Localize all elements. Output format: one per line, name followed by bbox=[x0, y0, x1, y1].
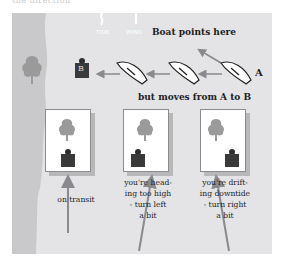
boat-icon bbox=[115, 60, 149, 86]
cutoff-heading-text: the direction bbox=[12, 0, 71, 5]
point-a-label: A bbox=[255, 67, 263, 78]
caption-on-transit: on transit bbox=[46, 194, 106, 205]
moves-caption: but moves from A to B bbox=[138, 92, 251, 102]
wind-label: WIND bbox=[126, 29, 142, 35]
caption-drifting: you're drift- ing downtide - turn right … bbox=[192, 177, 258, 221]
diagram-panel: TIDE WIND Boat points here B A but mov bbox=[12, 13, 272, 254]
boat-icon bbox=[219, 60, 253, 86]
boat-points-caption: Boat points here bbox=[152, 27, 236, 37]
card-tree-icon bbox=[136, 119, 154, 141]
card-tree-icon bbox=[58, 119, 76, 141]
card-buoy-icon bbox=[61, 149, 75, 167]
wind-icon bbox=[131, 13, 141, 27]
tide-icon bbox=[96, 13, 136, 27]
tide-label: TIDE bbox=[96, 29, 110, 35]
caption-heading-high: you're head- ing too high - turn left a … bbox=[115, 177, 181, 221]
card-buoy-icon bbox=[131, 149, 145, 167]
boat-icon bbox=[167, 60, 201, 86]
card-buoy-icon bbox=[225, 149, 239, 167]
card-tree-icon bbox=[207, 119, 225, 141]
